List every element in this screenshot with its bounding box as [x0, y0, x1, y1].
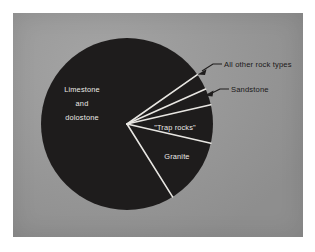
leader-arrow-all-other-rock-types	[198, 69, 207, 75]
figure-root: Limestone and dolostone "Trap rocks" Gra…	[0, 0, 315, 252]
pie-chart: Limestone and dolostone "Trap rocks" Gra…	[0, 0, 315, 252]
slice-label-granite: Granite	[164, 152, 189, 161]
slice-label-limestone-line1: Limestone	[64, 85, 99, 94]
leader-line-all-other-rock-types	[202, 64, 222, 71]
slice-label-trap-rocks: "Trap rocks"	[154, 123, 196, 132]
slice-label-limestone-line3: dolostone	[65, 113, 98, 122]
slice-label-limestone-line2: and	[76, 99, 89, 108]
callout-label-all-other-rock-types: All other rock types	[224, 60, 292, 69]
callout-label-sandstone: Sandstone	[231, 85, 269, 94]
